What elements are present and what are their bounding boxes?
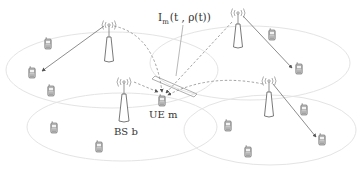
- phone-icon: [225, 119, 231, 131]
- interference-label-leader: [176, 25, 183, 76]
- cell-outlines: [6, 26, 356, 165]
- bs-b-label: BS b: [114, 126, 138, 137]
- base-station-bottom-right: [262, 77, 276, 118]
- cell-top-right: [150, 26, 350, 100]
- tower-icon: [265, 92, 274, 117]
- network-diagram: Im(t , ρ(t)) UE m BS b: [0, 0, 357, 173]
- phone-icon: [48, 84, 54, 96]
- ue-m-phone-icon: [159, 94, 165, 106]
- ue-m-label: UE m: [149, 109, 178, 120]
- interference-beam: [152, 76, 197, 97]
- serving-link-top-right: [243, 16, 292, 68]
- phone-icon: [45, 37, 51, 49]
- phone-icon: [296, 62, 302, 74]
- phone-icon: [96, 140, 102, 152]
- interference-label: Im(t , ρ(t)): [158, 11, 211, 26]
- base-station-top-left: [102, 21, 116, 63]
- phone-icon: [51, 121, 57, 133]
- user-equipment: [29, 28, 325, 157]
- desired-link-bs-b: [134, 82, 158, 92]
- phone-icon: [301, 103, 307, 115]
- phone-icon: [269, 28, 275, 40]
- phone-icon: [319, 133, 325, 145]
- tower-icon: [119, 94, 129, 122]
- interference-link-top-right: [166, 22, 232, 93]
- serving-link-bottom-right: [273, 84, 316, 137]
- tower-icon: [105, 37, 114, 62]
- base-station-top-right: [231, 9, 245, 49]
- phone-icon: [245, 145, 251, 157]
- phone-icon: [29, 66, 35, 78]
- interference-link-top-left: [114, 26, 162, 92]
- base-station-b: [117, 78, 131, 123]
- tower-icon: [234, 24, 243, 48]
